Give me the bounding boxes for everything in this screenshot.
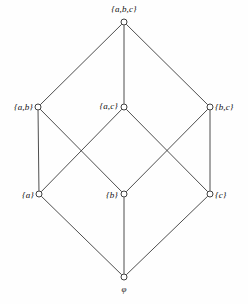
node-label-c: {c}	[215, 191, 227, 200]
hasse-diagram: {a,b,c}{a,b}{a,c}{b,c}{a}{b}{c}φ	[0, 0, 248, 304]
node-label-ac: {a,c}	[100, 102, 118, 111]
lattice-node-ac	[121, 104, 127, 110]
lattice-node-bc	[207, 104, 213, 110]
lattice-node-b	[121, 191, 127, 197]
lattice-edge	[127, 25, 208, 105]
lattice-edge	[41, 25, 122, 105]
node-label-empty: φ	[121, 285, 126, 294]
edge-layer	[38, 25, 210, 275]
lattice-node-ab	[35, 104, 41, 110]
lattice-node-empty	[121, 274, 127, 280]
lattice-node-a	[36, 191, 42, 197]
lattice-edge	[38, 111, 39, 191]
node-label-b: {b}	[106, 191, 118, 200]
lattice-node-c	[207, 191, 213, 197]
node-label-a: {a}	[22, 191, 34, 200]
lattice-edge	[42, 197, 122, 275]
node-label-abc: {a,b,c}	[111, 5, 136, 14]
lattice-graph	[0, 0, 248, 304]
lattice-edge	[127, 197, 208, 275]
node-label-ab: {a,b}	[14, 103, 33, 112]
node-label-bc: {b,c}	[215, 103, 233, 112]
lattice-node-abc	[121, 19, 127, 25]
